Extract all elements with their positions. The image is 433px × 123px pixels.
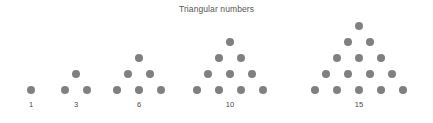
data-point-dot: [355, 22, 363, 30]
data-point-dot: [311, 86, 319, 94]
dot-group: 15: [0, 0, 433, 123]
data-point-dot: [366, 38, 374, 46]
data-point-dot: [399, 86, 407, 94]
group-label: 15: [329, 100, 389, 110]
data-point-dot: [333, 86, 341, 94]
data-point-dot: [333, 54, 341, 62]
data-point-dot: [377, 54, 385, 62]
data-point-dot: [344, 70, 352, 78]
triangular-numbers-figure: Triangular numbers 1361015: [0, 0, 433, 123]
plot-area: 1361015: [0, 0, 433, 123]
data-point-dot: [355, 86, 363, 94]
data-point-dot: [366, 70, 374, 78]
data-point-dot: [355, 54, 363, 62]
data-point-dot: [377, 86, 385, 94]
data-point-dot: [388, 70, 396, 78]
data-point-dot: [344, 38, 352, 46]
data-point-dot: [322, 70, 330, 78]
